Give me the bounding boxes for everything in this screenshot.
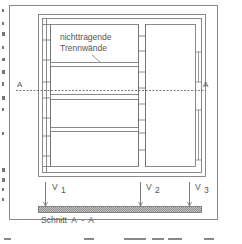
figure-frame [10, 6, 218, 220]
right-room [146, 25, 196, 167]
load-v1-index: 1 [61, 185, 66, 195]
svg-text:V 1: V 1 [52, 182, 66, 195]
section-marker-left: A [17, 80, 23, 89]
right-wall-windows [196, 52, 202, 160]
load-arrow-v1 [44, 182, 48, 206]
annotation-leader [92, 55, 100, 62]
load-v2-index: 2 [155, 185, 160, 195]
load-arrow-v2 [139, 182, 143, 206]
load-arrow-v3 [188, 182, 192, 206]
left-bearing-wall [43, 19, 51, 173]
section-marker-right: A [203, 80, 209, 89]
cropped-caption-text [4, 238, 214, 240]
annotation-line-1: nichttragende [60, 32, 112, 42]
room-4 [51, 132, 139, 167]
annotation-line-2: Trennwände [60, 43, 107, 53]
svg-text:V 2: V 2 [146, 182, 160, 195]
load-v3-symbol: V [195, 182, 201, 192]
cropped-margin-text [2, 9, 5, 201]
load-v3-index: 3 [204, 185, 209, 195]
central-bearing-wall [139, 25, 146, 167]
section-slab [39, 207, 202, 213]
room-3 [51, 100, 139, 128]
load-v2-symbol: V [146, 182, 152, 192]
load-v1-symbol: V [52, 182, 58, 192]
section-title: Schnitt A - A [41, 215, 94, 225]
svg-text:V 3: V 3 [195, 182, 209, 195]
floor-plan-diagram: nichttragende Trennwände A A V 1 V 2 V 3… [0, 0, 242, 244]
